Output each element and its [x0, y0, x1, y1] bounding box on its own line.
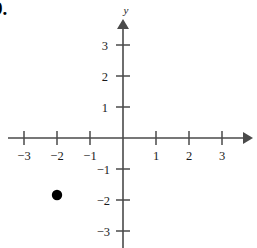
y-tick-label-neg3: −3	[97, 225, 110, 239]
x-tick-label-neg1: −1	[83, 149, 96, 163]
y-tick-label-pos1: 1	[102, 101, 108, 115]
y-axis-label: y	[123, 4, 129, 16]
x-axis-arrow-icon	[243, 132, 253, 144]
x-tick-label-neg2: −2	[50, 149, 63, 163]
y-tick-label-neg1: −1	[97, 163, 110, 177]
coordinate-plane-figure: 9. −3 −2 −1 1 2 3 3 2 1 −1	[0, 0, 257, 248]
y-tick-label-neg2: −2	[97, 194, 110, 208]
y-tick-label-pos2: 2	[102, 70, 108, 84]
plotted-point	[52, 190, 62, 200]
x-tick-label-pos3: 3	[219, 149, 225, 163]
y-axis-arrow-icon	[117, 19, 129, 29]
x-tick-label-neg3: −3	[17, 149, 30, 163]
x-tick-label-pos2: 2	[186, 149, 192, 163]
coordinate-graph: −3 −2 −1 1 2 3 3 2 1 −1 −2 −3 y	[0, 0, 257, 248]
y-tick-label-pos3: 3	[102, 39, 108, 53]
x-tick-label-pos1: 1	[153, 149, 159, 163]
